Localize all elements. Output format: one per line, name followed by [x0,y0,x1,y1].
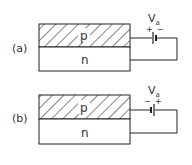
source-label-b: Va [148,84,160,99]
n-label-b: n [81,126,89,140]
sign-left-b: − [144,97,151,106]
source-label-a: Va [148,12,160,27]
p-label-a: p [80,29,88,43]
n-label-a: n [81,53,89,67]
diagram-label-b: (b) [12,112,28,125]
p-label-b: p [80,101,88,115]
pn-junction-diagrams: (a) p n + − Va (b) p n − + Va [0,0,192,165]
diagram-label-a: (a) [12,42,27,55]
diagram-b: (b) p n − + Va [12,84,177,144]
diagram-a: (a) p n + − Va [12,12,177,71]
sign-left-a: + [146,25,153,34]
